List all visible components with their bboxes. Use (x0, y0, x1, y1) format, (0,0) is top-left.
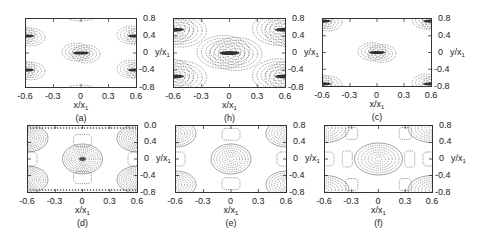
y-axis-label: y/x1 (156, 154, 171, 166)
panel-label: (d) (77, 219, 88, 228)
x-tick-label: 0.6 (131, 197, 144, 206)
x-tick-label: 0.6 (280, 197, 293, 206)
x-tick-label: 0.6 (130, 92, 143, 101)
y-tick-label: -0.4 (139, 65, 155, 74)
x-tick-label: 0.3 (252, 197, 265, 206)
y-tick-label: 0 (144, 154, 149, 163)
x-axis-label-subscript: 1 (235, 210, 238, 216)
x-axis-label-text: x/x (74, 100, 86, 110)
x-axis-label: x/x1 (370, 100, 385, 112)
x-tick-label: 0.3 (399, 197, 412, 206)
y-tick-label: 0 (143, 48, 148, 57)
y-axis-label-text: y/x (155, 47, 167, 57)
x-tick-label: -0.6 (17, 92, 33, 101)
x-axis-label: x/x1 (75, 206, 90, 218)
y-tick-label: 0.8 (292, 14, 305, 23)
panel-label: (c) (372, 113, 383, 122)
x-axis-label-subscript: 1 (87, 210, 90, 216)
x-tick-label: -0.6 (167, 197, 183, 206)
contour-lines (26, 19, 136, 87)
x-tick-label: -0.3 (195, 197, 211, 206)
x-tick-label: 0.6 (279, 92, 292, 101)
y-tick-label: 0.4 (144, 137, 157, 146)
y-axis-label-subscript: 1 (316, 52, 319, 58)
contour-plot-frame (175, 125, 287, 193)
x-tick-label: -0.3 (47, 197, 63, 206)
y-axis-label: y/x1 (451, 154, 466, 166)
y-axis-label-text: y/x (451, 153, 463, 163)
x-axis-label-subscript: 1 (383, 210, 386, 216)
y-tick-label: 0.8 (143, 14, 156, 23)
x-tick-label: -0.3 (343, 197, 359, 206)
y-axis-label-text: y/x (156, 153, 168, 163)
y-axis-label-text: y/x (305, 153, 317, 163)
contour-lines (323, 19, 431, 86)
panel-label: (e) (226, 219, 237, 228)
y-tick-label: 0.4 (439, 137, 452, 146)
y-tick-label: 0.8 (439, 121, 452, 130)
x-axis-label: x/x1 (74, 101, 89, 113)
x-axis-label-text: x/x (370, 99, 382, 109)
x-tick-label: 0.3 (397, 91, 410, 100)
x-tick-label: -0.6 (19, 197, 35, 206)
x-tick-label: 0.3 (102, 92, 115, 101)
x-tick-label: 0.3 (251, 92, 264, 101)
x-axis-label-text: x/x (224, 205, 236, 215)
x-tick-label: -0.6 (314, 91, 330, 100)
contour-lines (176, 126, 286, 192)
x-tick-label: 0.3 (103, 197, 116, 206)
x-tick-label: -0.6 (316, 197, 332, 206)
y-axis-label-text: y/x (450, 47, 462, 57)
x-axis-label-subscript: 1 (85, 105, 88, 111)
contour-lines (28, 126, 137, 192)
x-tick-label: -0.3 (193, 92, 209, 101)
y-axis-label: y/x1 (155, 48, 170, 60)
y-tick-label: -0.4 (435, 171, 451, 180)
panel-label: (h) (224, 114, 235, 123)
y-tick-label: -0.4 (288, 65, 304, 74)
x-tick-label: -0.6 (165, 92, 181, 101)
y-axis-label-subscript: 1 (317, 158, 320, 164)
y-tick-label: -0.4 (289, 171, 305, 180)
contour-lines (174, 19, 285, 87)
contour-plot-frame (173, 18, 286, 88)
contour-plot-frame (324, 125, 433, 193)
y-axis-label-subscript: 1 (168, 158, 171, 164)
y-tick-label: 0 (438, 48, 443, 57)
contour-plot-frame (25, 18, 137, 88)
panel-label: (a) (76, 114, 87, 123)
y-tick-label: 0.0 (144, 121, 157, 130)
y-tick-label: 0.4 (438, 31, 451, 40)
x-axis-label-subscript: 1 (234, 105, 237, 111)
y-tick-label: 0 (293, 154, 298, 163)
y-axis-label: y/x1 (305, 154, 320, 166)
x-axis-label-text: x/x (371, 205, 383, 215)
y-axis-label: y/x1 (450, 48, 465, 60)
x-tick-label: -0.3 (45, 92, 61, 101)
panel-label: (f) (374, 219, 383, 228)
y-tick-label: 0.4 (292, 31, 305, 40)
x-tick-label: 0.6 (425, 91, 438, 100)
y-axis-label-subscript: 1 (462, 52, 465, 58)
y-tick-label: 0.4 (143, 31, 156, 40)
x-axis-label: x/x1 (222, 101, 237, 113)
x-axis-label: x/x1 (224, 206, 239, 218)
x-axis-label-text: x/x (75, 205, 87, 215)
y-tick-label: 0.8 (293, 121, 306, 130)
y-axis-label-subscript: 1 (463, 158, 466, 164)
x-axis-label-subscript: 1 (381, 104, 384, 110)
y-tick-label: 0.8 (438, 14, 451, 23)
contour-plot-frame (27, 125, 138, 193)
contour-lines (325, 126, 432, 192)
x-axis-label-text: x/x (222, 100, 234, 110)
y-tick-label: 0 (292, 48, 297, 57)
x-axis-label: x/x1 (371, 206, 386, 218)
y-tick-label: -0.4 (140, 171, 156, 180)
y-tick-label: -0.4 (434, 65, 450, 74)
x-tick-label: 0.6 (426, 197, 439, 206)
y-axis-label-subscript: 1 (167, 52, 170, 58)
y-axis-label: y/x1 (304, 48, 319, 60)
y-tick-label: 0 (439, 154, 444, 163)
x-tick-label: -0.3 (341, 91, 357, 100)
y-axis-label-text: y/x (304, 47, 316, 57)
